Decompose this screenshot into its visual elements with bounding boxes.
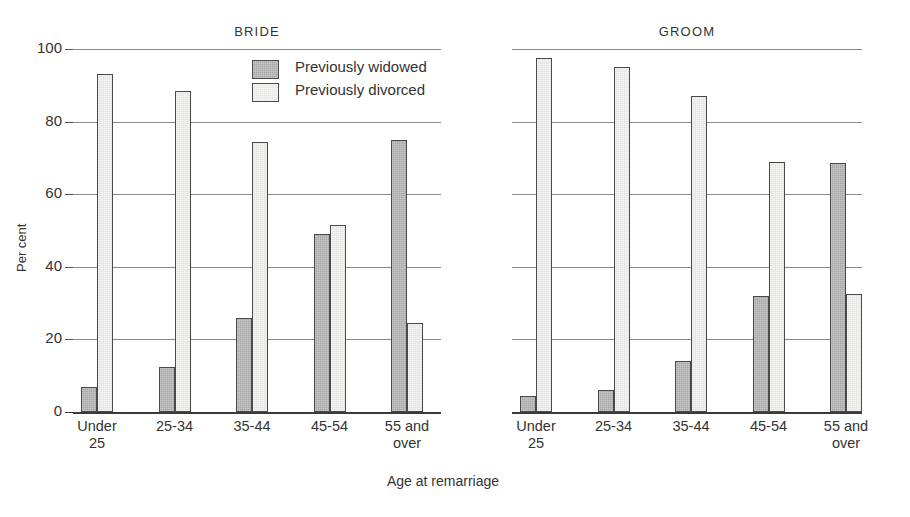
legend-label-widowed: Previously widowed: [295, 58, 427, 75]
y-tick-mark: [65, 267, 73, 268]
bar-divorced: [407, 323, 423, 412]
legend-swatch-divorced-icon: [252, 83, 279, 102]
gridline: [512, 122, 862, 123]
remarriage-bar-chart-figure: Per cent Age at remarriage 020406080100 …: [0, 0, 910, 517]
legend-swatch-widowed-icon: [252, 60, 279, 79]
y-tick-label: 80: [22, 112, 62, 129]
x-axis-line: [512, 412, 862, 414]
x-axis-line: [73, 412, 441, 414]
y-tick-label: 40: [22, 257, 62, 274]
gridline: [512, 267, 862, 268]
bar-divorced: [175, 91, 191, 412]
bar-divorced: [252, 142, 268, 412]
x-axis-label: Age at remarriage: [387, 473, 499, 489]
bar-widowed: [391, 140, 407, 412]
x-tick-label: 25-34: [135, 418, 215, 435]
bar-widowed: [520, 396, 536, 412]
y-tick-mark: [65, 49, 73, 50]
x-tick-label: Under25: [496, 418, 576, 452]
bar-divorced: [846, 294, 862, 412]
bar-divorced: [97, 74, 113, 412]
bar-divorced: [330, 225, 346, 412]
bar-widowed: [830, 163, 846, 412]
bar-widowed: [236, 318, 252, 412]
bar-divorced: [614, 67, 630, 412]
gridline: [512, 49, 862, 50]
bar-widowed: [753, 296, 769, 412]
bar-widowed: [314, 234, 330, 412]
x-tick-label: 25-34: [574, 418, 654, 435]
panel-title: GROOM: [512, 24, 862, 39]
y-tick-mark: [65, 412, 73, 413]
bar-widowed: [159, 367, 175, 412]
gridline: [73, 49, 441, 50]
y-tick-label: 20: [22, 329, 62, 346]
bar-divorced: [691, 96, 707, 412]
gridline: [512, 339, 862, 340]
bar-widowed: [675, 361, 691, 412]
panel-title: BRIDE: [73, 24, 441, 39]
bar-divorced: [769, 162, 785, 412]
y-tick-label: 100: [22, 39, 62, 56]
x-tick-label: 35-44: [212, 418, 292, 435]
x-tick-label: 55 andover: [367, 418, 447, 452]
y-tick-mark: [65, 122, 73, 123]
x-tick-label: Under25: [57, 418, 137, 452]
y-tick-mark: [65, 194, 73, 195]
x-tick-label: 45-54: [290, 418, 370, 435]
bar-divorced: [536, 58, 552, 412]
gridline: [512, 194, 862, 195]
y-tick-label: 60: [22, 184, 62, 201]
y-tick-mark: [65, 339, 73, 340]
x-tick-label: 35-44: [651, 418, 731, 435]
gridline: [73, 122, 441, 123]
bar-widowed: [598, 390, 614, 412]
legend-label-divorced: Previously divorced: [295, 81, 425, 98]
x-tick-label: 55 andover: [806, 418, 886, 452]
x-tick-label: 45-54: [729, 418, 809, 435]
y-tick-label: 0: [22, 402, 62, 419]
bar-widowed: [81, 387, 97, 412]
